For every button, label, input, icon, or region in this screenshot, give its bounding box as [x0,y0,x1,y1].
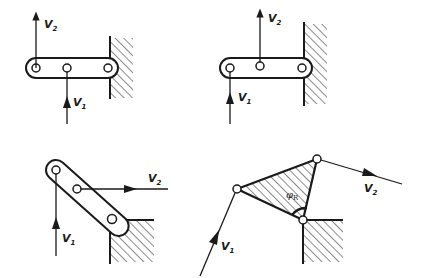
label-v2: V2 [148,172,162,187]
pin [73,185,81,193]
pin [298,64,306,72]
label-v2: V2 [364,182,378,197]
label-v1: V1 [62,232,76,247]
pin [313,155,321,163]
arrowhead-icon [63,96,71,108]
panel-b: V2 V1 [220,12,327,124]
pin [108,215,117,224]
label-v1: V1 [73,96,87,111]
label-v1: V1 [221,240,235,255]
pin [226,64,234,72]
pin [256,62,264,70]
pin [299,216,307,224]
arrowhead-icon [226,92,234,104]
arrowhead-icon [124,185,137,193]
pin [104,64,112,72]
velocity-v2-arrow [321,160,402,184]
panel-c: V2 V1 [42,156,168,264]
pin [63,64,71,72]
arrowhead-icon [209,230,219,245]
arrowhead-icon [52,217,60,229]
mechanics-diagram: V2 V1 V2 V1 V2 V1 [0,0,422,278]
arrowhead-icon [362,168,377,176]
ground-hatch [304,221,343,262]
label-v1: V1 [238,91,252,106]
panel-d: V2 V1 φR [200,155,402,276]
label-v2: V2 [44,18,58,33]
triangular-plate [237,159,317,220]
pin [52,166,60,174]
pin [233,185,241,193]
label-v2: V2 [268,12,282,27]
panel-a: V2 V1 [26,16,133,124]
